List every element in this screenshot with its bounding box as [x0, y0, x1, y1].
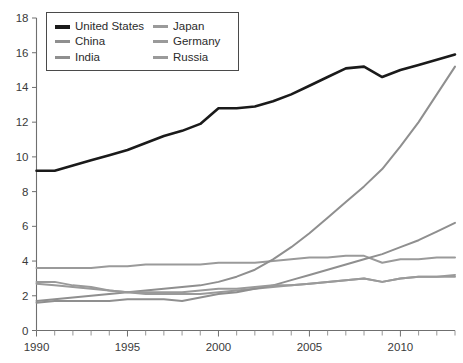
y-tick-label: 2 — [22, 290, 28, 302]
legend-swatch-russia — [153, 56, 168, 59]
y-tick-label: 10 — [16, 151, 29, 163]
y-tick-label: 14 — [16, 81, 29, 93]
legend-item-germany[interactable]: Germany — [153, 34, 240, 49]
legend-item-russia[interactable]: Russia — [153, 50, 240, 65]
legend: United States Japan China Germany India … — [46, 12, 239, 71]
legend-label-russia: Russia — [173, 51, 208, 64]
x-tick-label: 2005 — [297, 341, 323, 353]
line-chart: 024681012141618 19901995200020052010 Uni… — [0, 0, 463, 363]
legend-label-india: India — [75, 51, 100, 64]
x-tick-label: 1995 — [115, 341, 141, 353]
x-tick-label: 2000 — [206, 341, 232, 353]
legend-swatch-india — [55, 56, 70, 59]
legend-swatch-japan — [153, 25, 168, 28]
legend-item-china[interactable]: China — [55, 34, 153, 49]
series-line-japan — [37, 256, 456, 268]
y-tick-label: 8 — [22, 186, 28, 198]
y-tick-label: 0 — [22, 325, 28, 337]
y-tick-label: 12 — [16, 116, 29, 128]
y-tick-group: 024681012141618 — [16, 12, 37, 337]
y-tick-label: 16 — [16, 47, 29, 59]
y-tick-label: 4 — [22, 255, 29, 267]
series-group — [37, 54, 456, 302]
legend-item-india[interactable]: India — [55, 50, 153, 65]
legend-item-japan[interactable]: Japan — [153, 19, 240, 34]
x-axis: 19901995200020052010 — [24, 331, 455, 353]
x-tick-label: 1990 — [24, 341, 50, 353]
legend-label-united-states: United States — [75, 20, 144, 33]
legend-label-germany: Germany — [173, 35, 220, 48]
series-line-china — [37, 67, 456, 301]
y-tick-label: 6 — [22, 220, 28, 232]
legend-label-china: China — [75, 35, 105, 48]
legend-swatch-united-states — [55, 25, 70, 29]
legend-label-japan: Japan — [173, 20, 204, 33]
legend-item-united-states[interactable]: United States — [55, 19, 153, 34]
x-tick-label: 2010 — [388, 341, 414, 353]
x-tick-group: 19901995200020052010 — [24, 331, 455, 353]
y-tick-label: 18 — [16, 12, 29, 24]
legend-swatch-china — [55, 40, 70, 43]
legend-swatch-germany — [153, 40, 168, 43]
series-line-united-states — [37, 54, 456, 170]
y-axis: 024681012141618 — [16, 12, 37, 337]
